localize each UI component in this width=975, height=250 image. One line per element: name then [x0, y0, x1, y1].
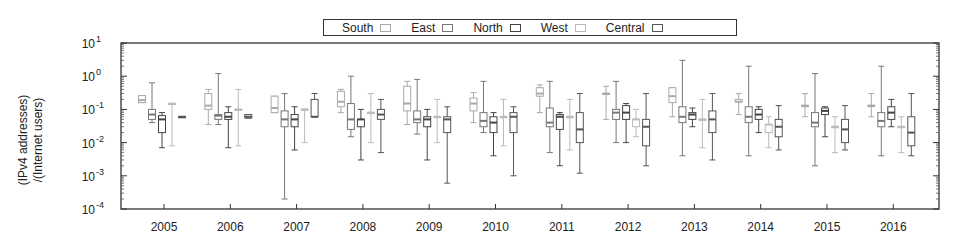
box-central-2015	[842, 106, 849, 150]
box-east-2007	[281, 94, 288, 199]
legend-swatch-icon	[652, 24, 663, 32]
svg-text:-2: -2	[96, 134, 104, 144]
box-east-2009	[414, 79, 421, 134]
box-central-2009	[444, 107, 451, 183]
box-north-2013	[689, 108, 696, 127]
box-south-2008	[337, 89, 344, 112]
legend-swatch-icon	[380, 24, 391, 32]
svg-text:-3: -3	[96, 167, 104, 177]
box-west-2008	[367, 94, 374, 143]
box-central-2013	[709, 94, 716, 160]
box-west-2014	[765, 117, 772, 148]
box-central-2008	[377, 99, 384, 152]
box-central-2011	[576, 94, 583, 174]
box-central-2007	[311, 94, 318, 117]
box-east-2013	[679, 60, 686, 155]
box-north-2015	[822, 107, 829, 137]
box-central-2010	[510, 107, 517, 176]
y-axis-label-line-2: /(Internet users)	[31, 98, 45, 183]
box-east-2011	[546, 81, 553, 152]
box-south-2012	[603, 86, 610, 119]
legend-swatch-icon	[442, 24, 453, 32]
x-tick-label: 2005	[151, 220, 178, 234]
box-central-2005	[179, 117, 186, 118]
legend-swatch-icon	[575, 24, 586, 32]
box-west-2012	[633, 109, 640, 136]
svg-text:1: 1	[96, 34, 101, 44]
box-east-2012	[613, 81, 620, 142]
box-west-2007	[301, 109, 308, 142]
box-south-2007	[271, 96, 278, 112]
box-north-2014	[755, 107, 762, 133]
y-axis-label: (IPv4 addresses) /(Internet users)	[12, 70, 48, 210]
y-axis-label-line-1: (IPv4 addresses)	[16, 95, 30, 186]
box-south-2009	[404, 81, 411, 124]
box-west-2009	[434, 99, 441, 142]
x-tick-label: 2008	[350, 220, 377, 234]
box-north-2009	[424, 109, 431, 160]
box-central-2006	[245, 115, 252, 118]
box-east-2015	[812, 74, 819, 166]
chart-legend: SouthEastNorthWestCentral	[323, 19, 737, 36]
legend-label: South	[342, 21, 373, 35]
box-east-2016	[878, 66, 885, 156]
box-central-2014	[775, 106, 782, 150]
legend-item-south: South	[342, 21, 391, 35]
box-plot-chart: 10110010-110-210-310-4 20052006200720082…	[0, 0, 975, 250]
box-south-2014	[735, 94, 742, 115]
x-tick-label: 2011	[549, 220, 575, 234]
box-north-2012	[623, 104, 630, 143]
box-series	[139, 60, 915, 199]
box-east-2005	[149, 83, 156, 123]
box-south-2006	[205, 89, 212, 124]
y-tick-label: 10	[82, 103, 96, 117]
box-central-2012	[643, 94, 650, 166]
box-east-2008	[347, 76, 354, 137]
x-tick-label: 2015	[814, 220, 841, 234]
box-central-2016	[908, 94, 915, 156]
box-north-2008	[357, 109, 364, 160]
box-west-2006	[235, 89, 242, 145]
x-tick-label: 2013	[681, 220, 708, 234]
svg-text:-4: -4	[96, 200, 104, 210]
box-east-2006	[215, 74, 222, 125]
box-south-2010	[470, 93, 477, 123]
box-north-2007	[291, 107, 298, 150]
legend-item-east: East	[411, 21, 453, 35]
box-west-2011	[566, 99, 573, 150]
y-tick-label: 10	[82, 170, 96, 184]
box-south-2013	[669, 88, 676, 117]
box-north-2006	[225, 107, 232, 148]
legend-item-north: North	[473, 21, 520, 35]
x-tick-label: 2006	[217, 220, 244, 234]
box-south-2011	[536, 85, 543, 113]
svg-text:-1: -1	[96, 100, 104, 110]
box-west-2010	[500, 99, 507, 145]
y-tick-label: 10	[82, 70, 96, 84]
box-south-2016	[868, 94, 875, 117]
box-south-2015	[802, 94, 809, 117]
box-west-2013	[699, 99, 706, 147]
legend-label: Central	[606, 21, 645, 35]
legend-item-west: West	[541, 21, 586, 35]
box-north-2010	[490, 113, 497, 156]
x-tick-label: 2016	[880, 220, 907, 234]
svg-text:0: 0	[96, 67, 101, 77]
legend-item-central: Central	[606, 21, 663, 35]
y-tick-label: 10	[82, 37, 96, 51]
box-south-2005	[139, 96, 146, 103]
legend-label: North	[473, 21, 502, 35]
x-tick-label: 2010	[482, 220, 509, 234]
box-east-2010	[480, 81, 487, 132]
legend-label: East	[411, 21, 435, 35]
x-tick-label: 2007	[283, 220, 310, 234]
legend-swatch-icon	[510, 24, 521, 32]
box-north-2011	[556, 113, 563, 166]
box-west-2016	[898, 117, 905, 153]
legend-label: West	[541, 21, 568, 35]
box-west-2015	[832, 117, 839, 153]
x-tick-label: 2014	[747, 220, 774, 234]
box-north-2005	[159, 113, 166, 148]
x-tick-label: 2012	[615, 220, 642, 234]
box-west-2005	[169, 104, 176, 146]
